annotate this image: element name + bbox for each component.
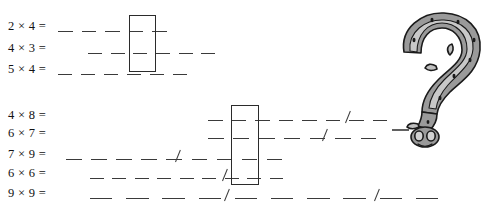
answer-dash xyxy=(307,198,329,199)
answer-dash xyxy=(179,53,193,54)
answer-dash xyxy=(81,74,95,75)
answer-dash xyxy=(217,159,233,160)
answer-dash xyxy=(180,178,194,179)
worksheet-canvas: 2 × 4 = 4 × 3 = 5 × 4 = 4 × 8 = 6 × 7 = … xyxy=(0,0,488,219)
answer-dash xyxy=(373,120,388,121)
answer-dash xyxy=(156,53,170,54)
answer-dash xyxy=(192,159,208,160)
answer-dash xyxy=(90,178,104,179)
answer-dash xyxy=(201,53,215,54)
answer-dash xyxy=(208,138,224,139)
separator-slash xyxy=(374,189,380,201)
answer-dash xyxy=(112,178,126,179)
answer-dash xyxy=(271,198,293,199)
question-mark-creature-icon xyxy=(392,6,488,148)
separator-slash xyxy=(224,189,230,201)
answer-dash xyxy=(267,159,283,160)
answer-dash xyxy=(58,74,72,75)
equation-label: 6 × 6 = xyxy=(8,165,46,181)
answer-dash xyxy=(141,159,157,160)
answer-dash xyxy=(126,198,148,199)
highlight-box-upper[interactable] xyxy=(129,15,156,72)
equation-row: 9 × 9 = xyxy=(0,185,488,201)
answer-dash xyxy=(349,120,364,121)
equation-label: 9 × 9 = xyxy=(8,185,46,201)
answer-dash xyxy=(279,120,294,121)
answer-dash xyxy=(150,74,164,75)
answer-dash xyxy=(416,198,438,199)
answer-dash xyxy=(284,138,300,139)
answer-dash xyxy=(259,138,275,139)
answer-dash xyxy=(82,31,97,32)
answer-dash xyxy=(162,198,184,199)
answer-dash xyxy=(270,178,284,179)
separator-slash xyxy=(222,169,228,181)
equation-label: 7 × 9 = xyxy=(8,146,46,162)
separator-slash xyxy=(175,150,181,162)
highlight-box-lower[interactable] xyxy=(231,105,259,185)
answer-dash xyxy=(127,74,141,75)
answer-dash xyxy=(105,31,120,32)
answer-dash xyxy=(202,178,216,179)
separator-slash xyxy=(322,129,328,141)
answer-dash xyxy=(91,159,107,160)
answer-dash xyxy=(66,159,82,160)
answer-dash xyxy=(361,138,377,139)
answer-dash xyxy=(235,198,257,199)
answer-dash xyxy=(90,198,112,199)
answer-dash xyxy=(116,159,132,160)
answer-dash xyxy=(326,120,341,121)
equation-label: 6 × 7 = xyxy=(8,125,46,141)
answer-dash xyxy=(135,178,149,179)
answer-dash xyxy=(157,178,171,179)
answer-dash xyxy=(343,198,365,199)
answer-dash xyxy=(302,120,317,121)
answer-dash xyxy=(166,159,182,160)
answer-dash xyxy=(380,198,402,199)
answer-dash xyxy=(335,138,351,139)
answer-dash xyxy=(173,74,187,75)
equation-label: 2 × 4 = xyxy=(8,18,46,34)
answer-dash xyxy=(111,53,125,54)
answer-dash xyxy=(208,120,223,121)
answer-dash xyxy=(104,74,118,75)
equation-label: 5 × 4 = xyxy=(8,61,46,77)
answer-dash xyxy=(199,198,221,199)
equation-label: 4 × 8 = xyxy=(8,107,46,123)
equation-label: 4 × 3 = xyxy=(8,40,46,56)
answer-dash xyxy=(88,53,102,54)
answer-dash xyxy=(58,31,73,32)
separator-slash xyxy=(345,111,351,123)
